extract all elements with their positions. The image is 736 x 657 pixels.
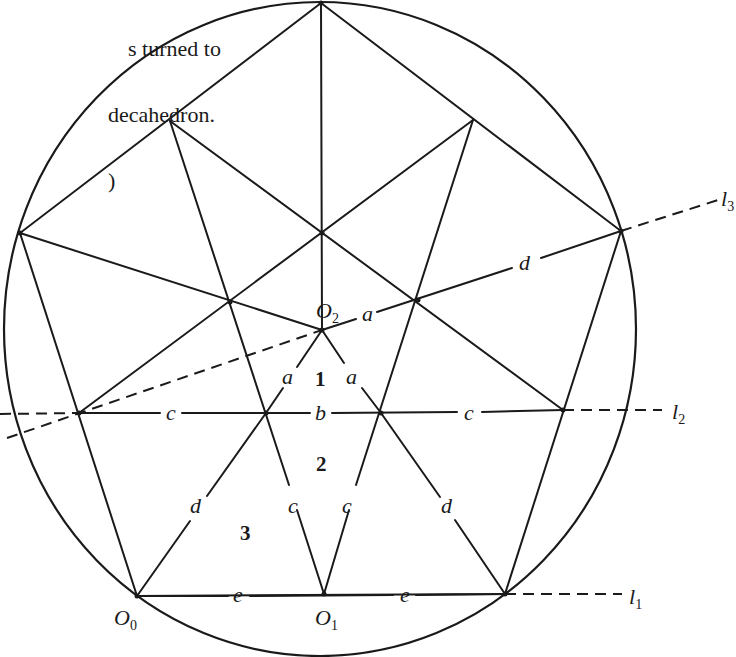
- line-q2-o0-lower: [137, 521, 190, 596]
- dodecahedron-net-diagram: O2 O0 O1 l1 l2 l3 a d a a c b c d c c d …: [0, 0, 736, 657]
- segment-label-d-top: d: [519, 250, 531, 275]
- l3-dashed-right: [621, 200, 718, 231]
- line-q3-br-lower: [455, 520, 505, 594]
- segment-label-a-right: a: [346, 364, 357, 389]
- line-l-o2: [20, 233, 322, 330]
- segment-label-d-left: d: [190, 493, 202, 518]
- line-o2-q2-upper: [297, 330, 322, 367]
- l2-solid-4: [482, 410, 563, 412]
- region-label-2: 2: [316, 452, 327, 476]
- axis-vertical: [321, 3, 322, 330]
- line-label-l3: l3: [721, 186, 734, 214]
- l3-solid-2: [377, 268, 512, 312]
- line-o2-q2-lower: [266, 388, 283, 413]
- segment-label-c-left: c: [166, 400, 176, 425]
- line-ur-q1: [79, 120, 473, 413]
- segment-label-c-right: c: [464, 400, 474, 425]
- line-ur-o1-upper: [356, 120, 473, 485]
- line-o2-q3-lower: [362, 388, 381, 413]
- line-label-l1: l1: [629, 584, 642, 612]
- l1-solid-3: [416, 594, 505, 595]
- segment-label-c-inner-left: c: [288, 493, 298, 518]
- segment-label-e-right: e: [400, 582, 410, 607]
- l3-dashed-left: [7, 330, 322, 438]
- segment-label-a-left: a: [282, 364, 293, 389]
- segment-label-d-right: d: [441, 493, 453, 518]
- region-label-1: 1: [315, 367, 326, 391]
- segment-label-e-left: e: [233, 582, 243, 607]
- l2-solid-3: [332, 412, 457, 413]
- line-ur-o1-lower: [324, 510, 349, 594]
- point-label-o2: O2: [316, 298, 339, 326]
- point-label-o0: O0: [114, 605, 137, 633]
- point-label-o1: O1: [315, 605, 338, 633]
- l3-solid-3: [541, 231, 621, 258]
- segment-label-c-inner-right: c: [342, 493, 352, 518]
- line-ul-q4: [170, 121, 563, 410]
- segment-label-a-top: a: [362, 301, 373, 326]
- line-o2-q3-upper: [322, 330, 344, 363]
- line-q3-br-upper: [381, 413, 440, 497]
- line-label-l2: l2: [672, 399, 685, 427]
- line-q2-o0-upper: [207, 413, 266, 496]
- l1-solid-2: [250, 595, 393, 596]
- region-label-3: 3: [240, 521, 251, 545]
- l2-dashed-left: [0, 413, 79, 414]
- segment-label-b: b: [315, 400, 326, 425]
- line-ul-o1-lower: [297, 510, 324, 594]
